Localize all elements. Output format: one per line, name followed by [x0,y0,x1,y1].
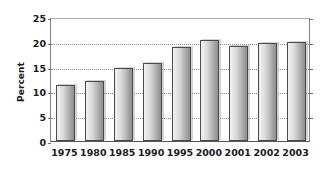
x-tick-label: 1985 [109,147,135,158]
y-axis-tick-mark-right [309,69,313,70]
y-tick-label: 20 [24,38,46,47]
y-axis-tick-mark [48,118,52,119]
x-tick-label: 1980 [80,147,106,158]
y-axis-tick-labels: 0510152025 [24,0,46,171]
bar [114,68,133,141]
bar [85,81,104,141]
y-axis-tick-mark [48,19,52,20]
bar [200,40,219,141]
y-axis-tick-mark-right [309,44,313,45]
x-tick-label: 2003 [282,147,308,158]
bar [56,85,75,141]
plot-area [50,18,310,142]
y-axis-tick-mark [48,69,52,70]
bar [287,42,306,141]
x-tick-label: 1995 [167,147,193,158]
chart-figure: Percent 0510152025 197519801985199019952… [0,0,325,171]
y-tick-label: 25 [24,14,46,23]
x-axis-tick-labels: 197519801985199019952000200120022003 [50,147,310,163]
y-axis-tick-mark [48,143,52,144]
y-tick-label: 0 [24,138,46,147]
y-axis-tick-mark [48,44,52,45]
y-axis-tick-mark-right [309,93,313,94]
y-tick-label: 5 [24,113,46,122]
y-axis-tick-mark-right [309,19,313,20]
x-tick-label: 2000 [196,147,222,158]
y-tick-label: 15 [24,63,46,72]
bar [143,63,162,141]
y-axis-tick-mark [48,93,52,94]
x-tick-label: 1975 [51,147,77,158]
bar [172,47,191,141]
y-axis-tick-mark-right [309,118,313,119]
bar [258,43,277,141]
bar [229,46,248,141]
x-tick-label: 2002 [253,147,279,158]
x-tick-label: 1990 [138,147,164,158]
x-tick-label: 2001 [225,147,251,158]
y-tick-label: 10 [24,88,46,97]
